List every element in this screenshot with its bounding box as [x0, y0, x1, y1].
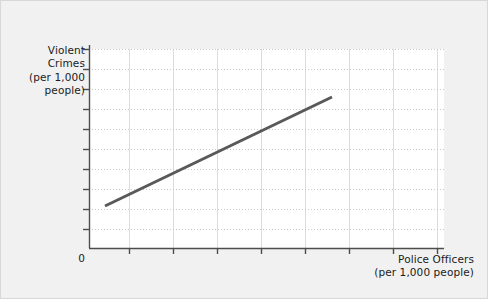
chart-figure: Violent Crimes (per 1,000 people) Police… — [0, 0, 488, 299]
plot-background — [89, 49, 444, 248]
origin-label: 0 — [63, 252, 85, 264]
x-axis-label: Police Officers (per 1,000 people) — [284, 253, 474, 280]
y-axis-label: Violent Crimes (per 1,000 people) — [1, 44, 85, 98]
